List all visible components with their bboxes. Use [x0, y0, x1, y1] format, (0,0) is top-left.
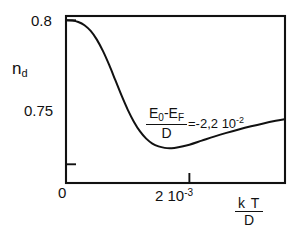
annotation-fraction: E0-EFD [146, 106, 187, 140]
y-tick-label-0.75: 0.75 [24, 103, 53, 118]
annotation-numerator: E0-EF [146, 106, 187, 125]
x-axis-title-numerator: k T [235, 196, 263, 212]
x-tick-label-0: 0 [58, 185, 66, 200]
annotation-value: =-2,2 10-2 [187, 116, 244, 130]
x-axis-title-fraction: k T D [235, 196, 263, 227]
annotation-exponent: -2 [236, 115, 244, 125]
y-axis-label: nd [12, 60, 28, 79]
annotation-ef-base: E [169, 105, 178, 121]
curve-annotation: E0-EFD=-2,2 10-2 [146, 106, 244, 140]
chart-figure: nd 0.8 0.75 0 2 10-3 k T D E0-EFD=-2,2 1… [0, 0, 305, 243]
annotation-denominator: D [146, 125, 187, 140]
annotation-equals-mantissa: =-2,2 10 [188, 116, 236, 131]
x-tick-label-2e-3: 2 10-3 [155, 188, 193, 203]
annotation-ef-subscript: F [178, 112, 184, 123]
y-tick-label-0.8: 0.8 [31, 13, 52, 28]
x-axis-title-denominator: D [235, 212, 263, 227]
x-tick-mantissa: 2 10 [155, 187, 184, 204]
y-axis-label-subscript: d [21, 67, 27, 79]
x-tick-exponent: -3 [184, 187, 193, 198]
annotation-e0-base: E [149, 105, 158, 121]
x-axis-title: k T D [235, 196, 263, 227]
